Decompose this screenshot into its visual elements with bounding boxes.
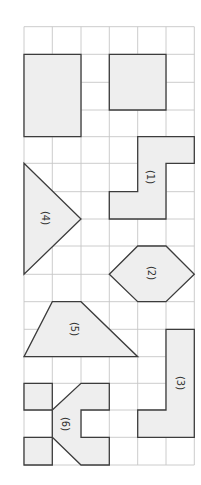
shape-4-label: (4): [40, 211, 51, 225]
square-unlabeled: [109, 54, 166, 110]
shape-2-label: (2): [146, 266, 157, 280]
grid-diagram: (1)(4)(2)(5)(3)(6): [0, 0, 201, 485]
shape-3-label: (3): [175, 376, 186, 390]
shape-6-label: (6): [60, 417, 71, 431]
rectangle-unlabeled: [24, 54, 81, 136]
shape-6-bottom-square: [24, 437, 52, 465]
shape-5-label: (5): [69, 322, 80, 336]
shape-1-label: (1): [145, 170, 156, 184]
shape-6-top-square: [24, 383, 52, 410]
